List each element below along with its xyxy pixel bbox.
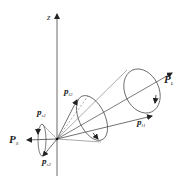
p-s2-vector bbox=[43, 139, 57, 156]
large-cone-rotation-arrow bbox=[155, 95, 156, 103]
left-cone-edge-top bbox=[42, 124, 57, 139]
origin-point bbox=[56, 138, 59, 141]
label-P-S: PS bbox=[9, 134, 18, 146]
precession-cone-diagram: z PL pl1 pl2 ps1 ps2 PS bbox=[0, 0, 185, 179]
z-axis-label: z bbox=[47, 13, 51, 22]
mid-cone-rotation-arrow bbox=[93, 133, 98, 139]
diagram-svg bbox=[0, 0, 185, 179]
label-p-l1: pl1 bbox=[137, 118, 145, 128]
label-p-s1: ps1 bbox=[37, 108, 46, 118]
left-cone-ellipse bbox=[38, 124, 46, 156]
ps-axis bbox=[27, 139, 57, 140]
large-cone-ellipse bbox=[117, 63, 167, 119]
mid-cone-ellipse bbox=[70, 91, 114, 145]
label-p-l2: pl2 bbox=[64, 87, 72, 97]
label-p-s2: ps2 bbox=[42, 157, 51, 167]
label-P-L: PL bbox=[164, 74, 174, 86]
